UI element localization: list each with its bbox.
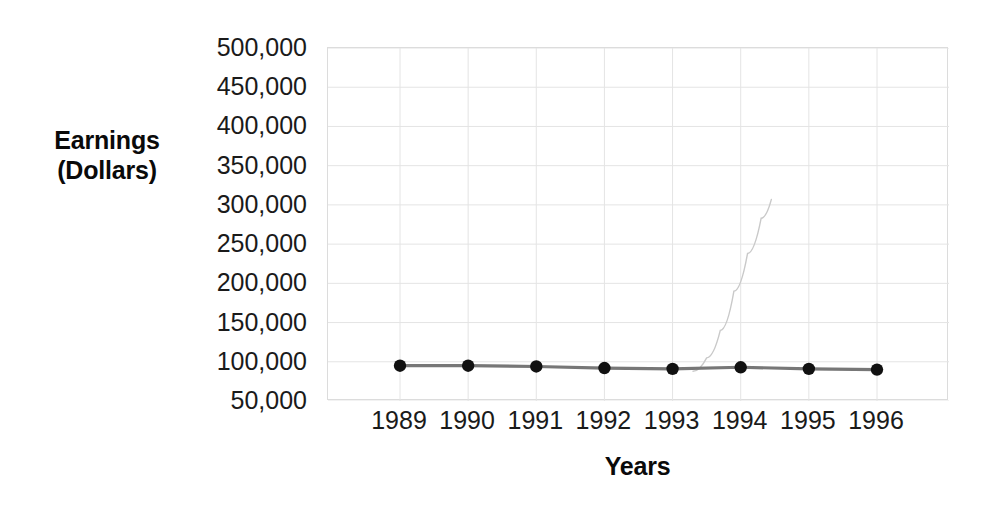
- y-axis-tick-label: 200,000: [150, 270, 307, 295]
- plot-area: [327, 47, 948, 400]
- vertical-gridlines: [400, 48, 877, 401]
- data-point-marker: [871, 363, 883, 375]
- x-axis-tick-labels: 19891990199119921993199419951996: [327, 408, 948, 442]
- y-axis-tick-label: 500,000: [150, 35, 307, 60]
- y-axis-tick-label: 150,000: [150, 309, 307, 334]
- y-axis-tick-label: 350,000: [150, 152, 307, 177]
- x-axis-tick-label: 1989: [371, 408, 427, 433]
- x-axis-tick-label: 1992: [576, 408, 632, 433]
- x-axis-tick-label: 1996: [848, 408, 904, 433]
- x-axis-tick-label: 1990: [439, 408, 495, 433]
- faint-artifact-curve: [693, 199, 771, 371]
- y-axis-tick-label: 50,000: [150, 388, 307, 413]
- data-point-marker: [666, 363, 678, 375]
- data-point-marker: [735, 361, 747, 373]
- x-axis-title: Years: [327, 452, 948, 481]
- data-point-marker: [394, 360, 406, 372]
- x-axis-tick-label: 1994: [712, 408, 768, 433]
- horizontal-gridlines: [328, 48, 949, 401]
- y-axis-tick-label: 450,000: [150, 74, 307, 99]
- y-axis-tick-label: 300,000: [150, 191, 307, 216]
- data-point-marker: [462, 360, 474, 372]
- data-point-marker: [598, 362, 610, 374]
- y-axis-tick-labels: 500,000450,000400,000350,000300,000250,0…: [150, 47, 307, 400]
- x-axis-tick-label: 1995: [780, 408, 836, 433]
- y-axis-tick-label: 400,000: [150, 113, 307, 138]
- chart-container: Earnings (Dollars) 500,000450,000400,000…: [0, 0, 1003, 507]
- x-axis-tick-label: 1993: [644, 408, 700, 433]
- data-point-marker: [530, 360, 542, 372]
- x-axis-tick-label: 1991: [507, 408, 563, 433]
- y-axis-tick-label: 100,000: [150, 348, 307, 373]
- data-point-marker: [803, 363, 815, 375]
- y-axis-tick-label: 250,000: [150, 231, 307, 256]
- plot-svg: [328, 48, 949, 401]
